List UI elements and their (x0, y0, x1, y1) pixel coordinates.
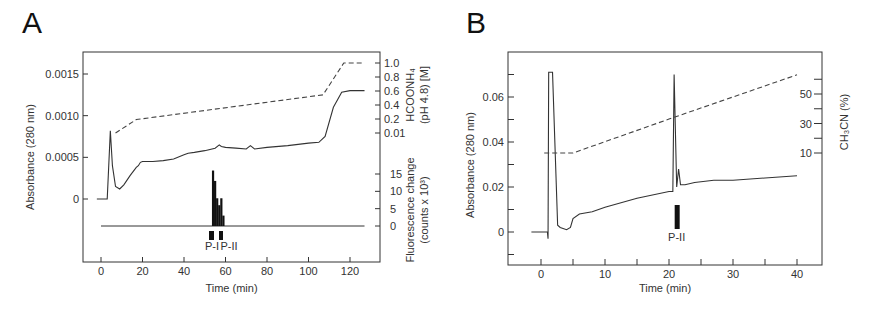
panel-a-frame (83, 52, 380, 262)
gradient-line (544, 75, 797, 153)
y-tick-label: 0.06 (483, 91, 504, 103)
chromatogram-figure: 020406080100120Time (min)00.00050.00100.… (0, 0, 877, 317)
y-tick-label: 0.0015 (45, 68, 79, 80)
x-axis-label: Time (min) (639, 282, 691, 294)
x-tick-label: 30 (727, 268, 739, 280)
right-axis-label: HCOONH₄ (404, 68, 416, 122)
right-axis-label: Fluorescence change (404, 157, 416, 262)
right-tick-label: 10 (800, 147, 812, 159)
right-tick-label: 1.0 (384, 57, 399, 69)
y-tick-label: 0.0010 (45, 110, 79, 122)
fluorescence-bar (212, 171, 214, 226)
y-axis-label: Absorbance (280 nm) (464, 112, 476, 218)
absorbance-line (531, 72, 797, 239)
peak-label-p1: P-I (205, 240, 219, 252)
fraction-marker-p2 (219, 231, 223, 240)
right-tick-label: 0.01 (384, 127, 405, 139)
x-tick-label: 0 (98, 265, 104, 277)
x-tick-label: 40 (791, 268, 803, 280)
y-axis-label: Absorbance (280 nm) (24, 104, 36, 210)
right-tick-label: 30 (800, 118, 812, 130)
y-tick-label: 0.0005 (45, 151, 79, 163)
fraction-marker-p2 (675, 205, 680, 229)
peak-label-p2: P-II (220, 240, 237, 252)
right-tick-label: 0 (390, 220, 396, 232)
fluorescence-bar (218, 205, 220, 226)
x-tick-label: 40 (178, 265, 190, 277)
right-axis-label: (pH 4.8) [M] (418, 66, 430, 124)
x-tick-label: 120 (341, 265, 359, 277)
right-tick-label: 0.2 (384, 113, 399, 125)
right-axis-label: CH₃CN (%) (838, 94, 850, 150)
x-tick-label: 80 (261, 265, 273, 277)
x-tick-label: 10 (599, 268, 611, 280)
x-tick-label: 0 (538, 268, 544, 280)
absorbance-line (97, 91, 365, 199)
y-tick-label: 0 (73, 193, 79, 205)
x-tick-label: 100 (299, 265, 317, 277)
y-tick-label: 0 (498, 226, 504, 238)
x-axis-label: Time (min) (205, 282, 257, 294)
x-tick-label: 20 (663, 268, 675, 280)
fluorescence-bar (220, 198, 222, 226)
right-axis-label: (counts x 10³) (418, 176, 430, 243)
right-tick-label: 0.8 (384, 71, 399, 83)
y-tick-label: 0.04 (483, 136, 504, 148)
right-tick-label: 10 (390, 185, 402, 197)
right-tick-label: 0.4 (384, 99, 399, 111)
right-tick-label: 15 (390, 168, 402, 180)
y-tick-label: 0.02 (483, 181, 504, 193)
right-tick-label: 5 (390, 203, 396, 215)
fluorescence-bar (222, 216, 224, 226)
fluorescence-bar (214, 181, 216, 226)
gradient-line (116, 63, 365, 133)
fluorescence-bar (216, 198, 218, 226)
x-tick-label: 60 (219, 265, 231, 277)
x-tick-label: 20 (136, 265, 148, 277)
right-tick-label: 50 (800, 88, 812, 100)
right-tick-label: 0.6 (384, 85, 399, 97)
peak-label-p2: P-II (668, 231, 685, 243)
fraction-marker-p1 (209, 231, 214, 240)
